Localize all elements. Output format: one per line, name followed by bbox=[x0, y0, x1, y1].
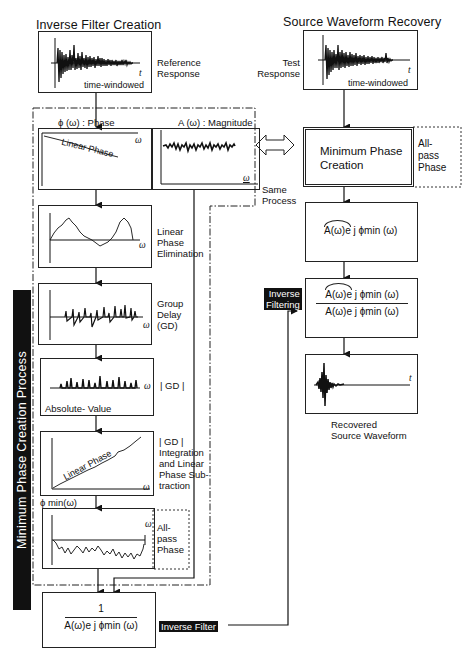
label-line: traction bbox=[159, 480, 209, 491]
t-axis-label: t bbox=[409, 373, 412, 384]
linear-phase-curve-label: Linear Phase bbox=[61, 137, 115, 160]
inverse-filter-fraction: 1 A(ω)e j ϕmin (ω) bbox=[61, 602, 141, 633]
test-response-label: Test Response bbox=[256, 57, 300, 79]
omega-axis-label: ω bbox=[143, 482, 150, 493]
inverse-filter-tag: Inverse Filter bbox=[159, 621, 218, 632]
same-process-arrow bbox=[256, 135, 294, 155]
label-line: Linear bbox=[157, 226, 203, 237]
integration-label: | GD | Integration and Linear Phase Sub-… bbox=[159, 436, 209, 491]
linear-phase-elimination-label: Linear Phase Elimination bbox=[157, 226, 203, 259]
label-line: pass bbox=[157, 533, 184, 544]
label-line: Integration bbox=[159, 447, 209, 458]
label-line: Phase bbox=[418, 162, 446, 174]
test-label-line1: Test bbox=[256, 57, 300, 68]
reference-label-line2: Response bbox=[157, 68, 201, 79]
numerator: 1 bbox=[61, 602, 141, 616]
phase-header: ϕ (ω) : Phase bbox=[58, 117, 115, 128]
source-waveform-recovery-title: Source Waveform Recovery bbox=[283, 15, 441, 29]
abs-gd-label: | GD | bbox=[160, 380, 184, 391]
numerator-rest: j ϕmin (ω) bbox=[352, 289, 399, 300]
omega-axis-label: ω bbox=[145, 519, 152, 530]
magnitude-header: A (ω) : Magnitude bbox=[178, 117, 252, 128]
min-phase-creation-text: Minimum Phase Creation bbox=[320, 144, 402, 172]
tag-line: Filtering bbox=[266, 299, 300, 310]
label-line: Source Waveform bbox=[331, 430, 407, 441]
hat-term: A(ω)e bbox=[325, 288, 352, 302]
label-line: Group bbox=[157, 298, 183, 309]
fraction-bar bbox=[316, 303, 408, 304]
label-line: Phase Sub- bbox=[159, 469, 209, 480]
denominator: A(ω)e j ϕmin (ω) bbox=[312, 305, 412, 319]
omega-axis-label: ω bbox=[143, 320, 150, 331]
minimum-phase-creation-box: Minimum Phase Creation bbox=[303, 127, 414, 187]
t-axis-label: t bbox=[408, 65, 411, 76]
line2: Creation bbox=[320, 158, 402, 172]
inverse-filtering-tag: Inverse Filtering bbox=[264, 288, 302, 310]
formula-rest: j ϕmin (ω) bbox=[351, 225, 398, 236]
inverse-filter-box: 1 A(ω)e j ϕmin (ω) bbox=[42, 592, 156, 648]
label-line: Delay bbox=[157, 309, 183, 320]
recovered-source-waveform-label: Recovered Source Waveform bbox=[331, 419, 407, 441]
omega-axis-label: ω bbox=[139, 240, 146, 251]
numerator: A(ω)e j ϕmin (ω) bbox=[312, 288, 412, 302]
process-label: Process bbox=[262, 195, 296, 206]
estimated-spectrum-formula: A(ω)e j ϕmin (ω) bbox=[324, 225, 397, 236]
label-line: Phase bbox=[157, 544, 184, 555]
time-windowed-caption: time-windowed bbox=[84, 80, 144, 91]
omega-axis-label: ω bbox=[144, 381, 151, 392]
minimum-phase-creation-process-label: Minimum Phase Creation Process bbox=[13, 290, 31, 610]
recovered-waveform-box: t bbox=[305, 354, 418, 414]
inverse-filter-creation-title: Inverse Filter Creation bbox=[36, 18, 161, 32]
test-response-box: t time-windowed bbox=[303, 30, 418, 90]
label-line: | GD | bbox=[159, 436, 209, 447]
integration-box: ω Linear Phase bbox=[40, 431, 154, 496]
reference-label-line1: Reference bbox=[157, 57, 201, 68]
phi-min-header: ϕ min(ω) bbox=[40, 497, 77, 508]
process-label-text: Minimum Phase Creation Process bbox=[15, 351, 29, 549]
tag-line: Inverse bbox=[266, 288, 300, 299]
group-delay-box: ω bbox=[38, 283, 152, 345]
label-line: pass bbox=[418, 150, 446, 162]
test-label-line2: Response bbox=[256, 68, 300, 79]
linear-phase-elimination-box: ω bbox=[38, 205, 152, 268]
label-line: and Linear bbox=[159, 458, 209, 469]
label-line: (GD) bbox=[157, 320, 183, 331]
reference-response-box: t time-windowed bbox=[38, 31, 152, 93]
same-label: Same bbox=[262, 184, 296, 195]
magnitude-box: ω bbox=[152, 128, 260, 190]
all-pass-phase-label-left: All- pass Phase bbox=[157, 522, 184, 555]
denominator: A(ω)e j ϕmin (ω) bbox=[61, 619, 141, 633]
omega-axis-label: ω bbox=[135, 135, 142, 146]
min-phase-box: ω bbox=[42, 508, 155, 569]
same-process-label: Same Process bbox=[262, 184, 296, 206]
fraction-bar bbox=[65, 617, 137, 618]
absolute-value-box: ω Absolute- Value bbox=[40, 358, 154, 416]
reference-response-label: Reference Response bbox=[157, 57, 201, 79]
t-axis-label: t bbox=[139, 68, 142, 79]
label-line: Elimination bbox=[157, 248, 203, 259]
label-line: Recovered bbox=[331, 419, 407, 430]
absolute-value-caption: Absolute- Value bbox=[45, 403, 111, 414]
group-delay-label: Group Delay (GD) bbox=[157, 298, 183, 331]
estimated-spectrum-box: A(ω)e j ϕmin (ω) bbox=[305, 202, 418, 262]
all-pass-phase-label-right: All- pass Phase bbox=[418, 138, 446, 174]
hat-term: A(ω)e bbox=[324, 225, 351, 236]
label-line: All- bbox=[157, 522, 184, 533]
label-line: Phase bbox=[157, 237, 203, 248]
omega-axis-label: ω bbox=[243, 173, 250, 184]
phase-box: ω Linear Phase bbox=[38, 128, 152, 190]
inverse-filtering-fraction: A(ω)e j ϕmin (ω) A(ω)e j ϕmin (ω) bbox=[312, 288, 412, 319]
inverse-filtering-box: A(ω)e j ϕmin (ω) A(ω)e j ϕmin (ω) bbox=[305, 278, 418, 338]
time-windowed-caption: time-windowed bbox=[348, 78, 408, 89]
label-line: All- bbox=[418, 138, 446, 150]
linear-phase-curve-label: Linear Phase bbox=[62, 448, 114, 482]
line1: Minimum Phase bbox=[320, 144, 402, 158]
